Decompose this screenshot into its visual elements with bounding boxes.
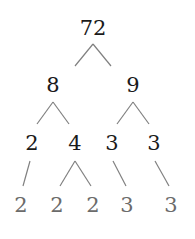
tree-node: 4 — [68, 133, 81, 154]
tree-edge — [37, 102, 53, 124]
tree-edge — [93, 44, 111, 66]
tree-node: 9 — [126, 75, 139, 96]
tree-edge — [117, 102, 133, 124]
tree-edge — [75, 44, 93, 66]
leaf-factor: 2 — [86, 195, 99, 216]
tree-edge — [155, 161, 169, 186]
tree-edge — [53, 102, 69, 124]
leaf-factor: 2 — [50, 195, 63, 216]
tree-edge — [60, 161, 75, 186]
tree-edge — [23, 161, 30, 186]
tree-node: 2 — [25, 133, 38, 154]
tree-node: 3 — [105, 133, 118, 154]
tree-edge — [75, 161, 91, 186]
factor-tree: 7289243322233 — [0, 0, 195, 239]
leaf-factor: 2 — [14, 195, 27, 216]
tree-node: 3 — [147, 133, 160, 154]
leaf-factor: 3 — [120, 195, 133, 216]
tree-node: 72 — [80, 18, 107, 39]
tree-node: 8 — [46, 75, 59, 96]
leaf-factor: 3 — [164, 195, 177, 216]
tree-edge — [133, 102, 149, 124]
tree-edge — [113, 161, 126, 186]
